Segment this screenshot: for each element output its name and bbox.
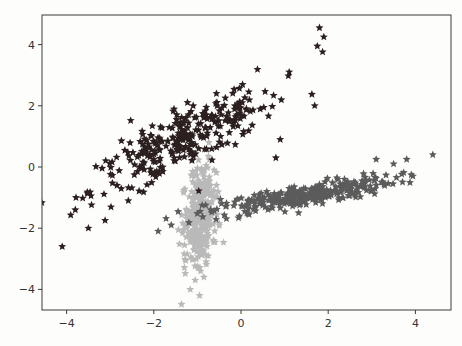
- x-tick-label: 0: [238, 317, 245, 330]
- x-tick-label: −4: [58, 317, 74, 330]
- x-tick-label: 2: [325, 317, 332, 330]
- chart-canvas: −4−2024 420−2−4: [0, 0, 462, 346]
- figure-background: [0, 0, 462, 346]
- y-tick-label: −2: [19, 222, 35, 235]
- x-tick-label: −2: [146, 317, 162, 330]
- y-tick-label: 2: [28, 100, 35, 113]
- y-tick-label: −4: [19, 283, 35, 296]
- y-tick-label: 0: [28, 161, 35, 174]
- y-tick-label: 4: [28, 39, 35, 52]
- x-tick-label: 4: [412, 317, 419, 330]
- scatter-chart: −4−2024 420−2−4: [0, 0, 462, 346]
